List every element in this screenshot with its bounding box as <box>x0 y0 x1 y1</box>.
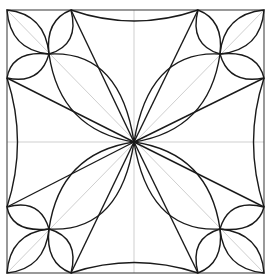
geometric-pattern-diagram <box>0 0 271 280</box>
